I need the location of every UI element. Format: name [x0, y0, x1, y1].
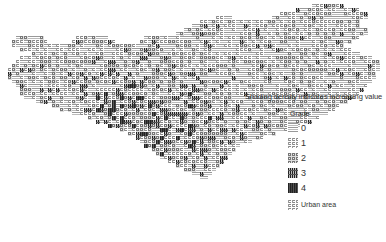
grade-3-swatch-icon	[288, 168, 298, 178]
map-legend: Shading density indicates increasing val…	[245, 92, 386, 101]
legend-item-grade-1: 1	[288, 137, 306, 148]
grade-2-swatch-icon	[288, 153, 298, 163]
legend-grade-3-label: 3	[301, 168, 306, 178]
legend-item-grade-2: 2	[288, 152, 306, 163]
grade-4-swatch-icon	[288, 183, 298, 193]
urban-area-swatch-icon	[288, 200, 298, 210]
legend-item-grade-0: 0	[288, 122, 306, 133]
legend-grade-2-label: 2	[301, 153, 306, 163]
grade-0-swatch-icon	[288, 123, 298, 133]
legend-grade-label: Grade	[290, 110, 309, 117]
grade-1-swatch-icon	[288, 138, 298, 148]
legend-grade-4-label: 4	[301, 183, 306, 193]
legend-title: Shading density indicates increasing val…	[245, 92, 386, 101]
legend-urban-label: Urban area	[301, 201, 336, 208]
legend-grade-0-label: 0	[301, 123, 306, 133]
legend-item-grade-4: 4	[288, 182, 306, 193]
legend-item-urban-area: Urban area	[288, 199, 336, 210]
legend-grade-1-label: 1	[301, 138, 306, 148]
legend-item-grade-3: 3	[288, 167, 306, 178]
